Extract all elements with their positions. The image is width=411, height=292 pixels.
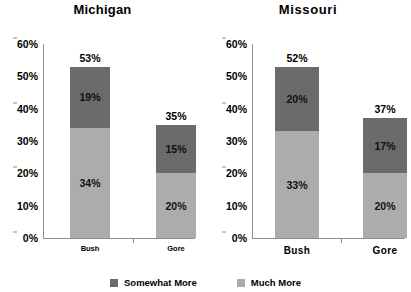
bar-segment-much-more: 34% <box>70 128 110 238</box>
x-axis-center-tick <box>341 239 342 243</box>
y-axis-tick-mark <box>13 102 17 103</box>
x-axis-line-missouri <box>252 238 405 239</box>
x-axis-label-gore: Gore <box>167 244 185 253</box>
y-axis-tick-mark <box>222 167 226 168</box>
bar-total-label: 35% <box>165 110 186 122</box>
y-axis-tick-label: 60% <box>226 38 253 50</box>
y-axis-tick-label: 50% <box>226 70 253 82</box>
bar-segment-value: 19% <box>79 91 100 103</box>
chart-legend: Somewhat MoreMuch More <box>0 277 411 288</box>
chart-title-missouri: Missouri <box>205 2 411 17</box>
bar-segment-much-more: 20% <box>156 173 196 238</box>
bar-segment-much-more: 33% <box>275 131 319 238</box>
y-axis-tick-label: 0% <box>23 232 44 244</box>
y-axis-tick-label: 50% <box>17 70 44 82</box>
y-axis-tick-label: 20% <box>226 167 253 179</box>
chart-panel-michigan: Michigan 0%10%20%30%40%50%60%34%19%53%20… <box>0 0 205 262</box>
chart-title-michigan: Michigan <box>0 2 205 17</box>
y-axis-tick-label: 40% <box>17 103 44 115</box>
x-axis-label-bush: Bush <box>284 245 311 256</box>
y-axis-tick-label: 60% <box>17 38 44 50</box>
y-axis-tick-label: 20% <box>17 167 44 179</box>
x-axis-line-michigan <box>43 238 195 239</box>
chart-panel-missouri: Missouri 0%10%20%30%40%50%60%33%20%52%20… <box>205 0 411 262</box>
y-axis-tick-mark <box>13 38 17 39</box>
bar-segment-value: 34% <box>79 177 100 189</box>
bar-total-label: 37% <box>374 103 395 115</box>
legend-item: Much More <box>237 277 301 288</box>
plot-area-missouri: 0%10%20%30%40%50%60%33%20%52%20%17%37% <box>253 44 405 238</box>
y-axis-tick-mark <box>222 102 226 103</box>
bar-segment-somewhat-more: 15% <box>156 125 196 174</box>
y-axis-tick-mark <box>222 38 226 39</box>
x-axis-label-bush: Bush <box>81 244 100 253</box>
bar-bush: 33%20% <box>275 67 319 238</box>
bar-segment-somewhat-more: 17% <box>363 118 407 173</box>
legend-label: Somewhat More <box>124 277 197 288</box>
plot-area-michigan: 0%10%20%30%40%50%60%34%19%53%20%15%35% <box>44 44 194 238</box>
bar-segment-value: 20% <box>286 93 307 105</box>
legend-swatch-somewhat-more <box>110 279 118 287</box>
bar-segment-somewhat-more: 20% <box>275 67 319 132</box>
bar-gore: 20%17% <box>363 118 407 238</box>
x-axis-center-tick <box>133 239 134 243</box>
bar-bush: 34%19% <box>70 67 110 238</box>
x-axis-label-gore: Gore <box>373 245 398 256</box>
legend-label: Much More <box>251 277 301 288</box>
y-axis-tick-label: 30% <box>17 135 44 147</box>
bar-total-label: 53% <box>79 52 100 64</box>
bar-segment-somewhat-more: 19% <box>70 67 110 128</box>
y-axis-tick-mark <box>222 232 226 233</box>
bar-segment-much-more: 20% <box>363 173 407 238</box>
y-axis-tick-label: 0% <box>232 232 253 244</box>
bar-total-label: 52% <box>286 52 307 64</box>
y-axis-tick-mark <box>13 232 17 233</box>
legend-item: Somewhat More <box>110 277 197 288</box>
bar-segment-value: 17% <box>374 140 395 152</box>
y-axis-tick-label: 10% <box>17 200 44 212</box>
y-axis-tick-label: 10% <box>226 200 253 212</box>
y-axis-tick-mark <box>13 167 17 168</box>
y-axis-tick-label: 30% <box>226 135 253 147</box>
bar-gore: 20%15% <box>156 125 196 238</box>
bar-segment-value: 20% <box>374 200 395 212</box>
legend-swatch-much-more <box>237 279 245 287</box>
y-axis-tick-label: 40% <box>226 103 253 115</box>
bar-segment-value: 33% <box>286 179 307 191</box>
bar-segment-value: 20% <box>165 200 186 212</box>
bar-segment-value: 15% <box>165 143 186 155</box>
chart-container: Michigan 0%10%20%30%40%50%60%34%19%53%20… <box>0 0 411 262</box>
